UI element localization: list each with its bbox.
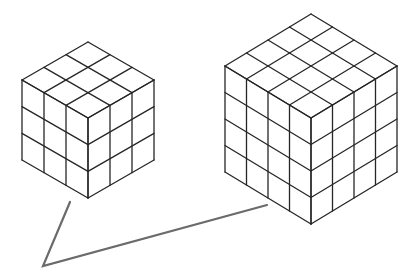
figure-canvas [0, 0, 408, 273]
v-pointer-line [43, 202, 267, 266]
small-cube-3x3x3 [22, 42, 154, 198]
connector-pointer [43, 202, 267, 266]
large-cube-4x4x4 [225, 14, 397, 224]
